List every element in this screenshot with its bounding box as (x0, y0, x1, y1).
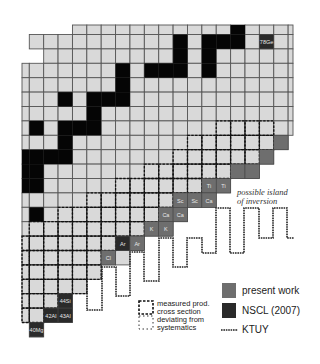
nuclide-cell (144, 135, 158, 149)
nuclide-cell (116, 25, 130, 35)
nuclide-cell (187, 63, 201, 77)
black-cell (29, 164, 43, 178)
nuclide-cell (288, 49, 293, 63)
nuclide-cell (29, 92, 43, 106)
black-cell (58, 135, 72, 149)
black-cell (87, 121, 101, 135)
nuclide-cell (144, 107, 158, 121)
black-cell (173, 49, 187, 63)
nuclide-cell (116, 121, 130, 135)
nuclide-cell (22, 121, 29, 135)
nuclide-cell (29, 63, 43, 77)
nuclide-cell (202, 92, 216, 106)
black-cell (116, 63, 130, 77)
nuclide-cell (72, 222, 86, 236)
black-cell (87, 92, 101, 106)
nuclide-cell (245, 92, 259, 106)
nuclide-cell (58, 179, 72, 193)
nuclide-cell (58, 49, 72, 63)
black-cell (231, 25, 245, 35)
nuclide-cell (144, 150, 158, 164)
nuclide-cell (173, 179, 187, 193)
nuclide-cell (259, 78, 273, 92)
nuclide-cell (44, 294, 58, 308)
island-of-inversion-annotation: possible island of inversion (237, 188, 288, 206)
legend-swatch-deviating (139, 316, 153, 329)
nuclide-cell (44, 135, 58, 149)
nuclide-cell (87, 222, 101, 236)
legend-label-nscl: NSCL (2007) (242, 305, 300, 316)
nuclide-cell (44, 107, 58, 121)
nuclide-cell (101, 207, 115, 221)
nuclide-cell (245, 78, 259, 92)
nuclide-cell (259, 121, 273, 135)
nuclide-cell (216, 121, 230, 135)
nuclide-cell (288, 107, 293, 121)
isotope-cell (231, 164, 245, 178)
nuclide-cell (44, 222, 58, 236)
nuclide-cell (44, 78, 58, 92)
nuclide-cell (202, 150, 216, 164)
nuclide-cell (231, 135, 245, 149)
nuclide-cell (187, 135, 201, 149)
nuclide-cell (58, 193, 72, 207)
nuclide-cell (130, 193, 144, 207)
nuclide-cell (44, 35, 58, 49)
nuclide-cell (22, 294, 29, 308)
nuclide-cell (72, 35, 86, 49)
nuclide-cell (130, 179, 144, 193)
black-cell (202, 49, 216, 63)
nuclide-cell (259, 135, 273, 149)
black-cell (173, 63, 187, 77)
nuclide-cell (58, 164, 72, 178)
nuclide-cell (159, 179, 173, 193)
nuclide-cell (87, 164, 101, 178)
black-cell (22, 164, 29, 178)
nuclide-cell (101, 236, 115, 250)
nuclide-cell (101, 63, 115, 77)
nuclide-cell (216, 49, 230, 63)
nuclide-cell (216, 25, 230, 35)
nuclide-cell (22, 107, 29, 121)
black-cell (22, 150, 29, 164)
nuclide-cell (173, 107, 187, 121)
nuclide-cell (159, 107, 173, 121)
nuclide-cell (101, 25, 115, 35)
black-cell (22, 179, 29, 193)
nuclide-cell (187, 121, 201, 135)
nuclide-cell (87, 265, 101, 279)
nuclide-cell (116, 222, 130, 236)
nuclide-cell (116, 135, 130, 149)
legend-label-deviating: deviating from systematics (157, 316, 204, 332)
nuclide-cell (29, 193, 43, 207)
nuclide-cell (216, 150, 230, 164)
nuclide-cell (187, 107, 201, 121)
nuclide-cell (202, 107, 216, 121)
nuclide-cell (144, 121, 158, 135)
legend-label-measured: measured prod. cross section (157, 300, 210, 316)
nuclide-cell (231, 78, 245, 92)
nuclide-cell (173, 78, 187, 92)
nuclide-cell (87, 35, 101, 49)
nuclide-cell (22, 251, 29, 265)
nuclide-cell (259, 49, 273, 63)
nuclide-cell (187, 179, 201, 193)
nuclide-cell (44, 265, 58, 279)
nuclide-cell (130, 150, 144, 164)
nuclide-cell (173, 92, 187, 106)
legend-swatch-nscl (222, 303, 236, 318)
black-cell (44, 150, 58, 164)
nuclide-cell (87, 78, 101, 92)
nuclide-cell (259, 92, 273, 106)
nuclide-cell (22, 308, 29, 322)
nuclide-cell (187, 78, 201, 92)
nuclide-cell (216, 63, 230, 77)
nuclide-cell (44, 63, 58, 77)
legend-swatch-present-work (222, 283, 236, 298)
nuclide-cell (58, 251, 72, 265)
nuclide-cell (159, 92, 173, 106)
nuclide-cell (29, 279, 43, 293)
nuclide-cell (173, 164, 187, 178)
nuclide-cell (58, 279, 72, 293)
nuclide-cell (130, 92, 144, 106)
